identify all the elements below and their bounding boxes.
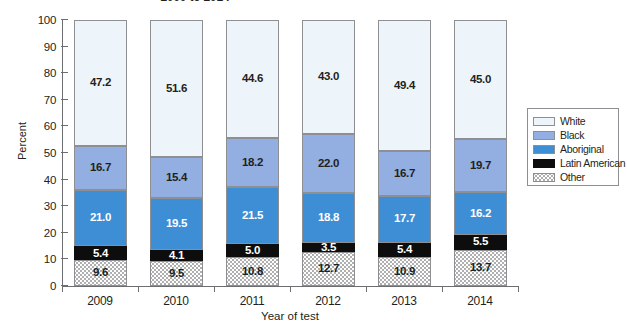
bar-segment-value: 9.5: [169, 268, 184, 280]
bar-segment: 22.0: [302, 134, 355, 193]
legend-label: Black: [560, 129, 584, 141]
bar-segment: 43.0: [302, 20, 355, 134]
y-axis-tick-mark: [61, 232, 68, 233]
y-axis-title: Percent: [16, 101, 28, 181]
bar-segment: 5.0: [226, 244, 279, 257]
bar-segment-value: 10.8: [242, 266, 263, 278]
legend-swatch-icon: [533, 159, 555, 168]
bar-segment: 3.5: [302, 243, 355, 252]
bar-segment: 16.7: [378, 151, 431, 195]
legend-swatch-icon: [533, 117, 555, 126]
x-axis-tick-mark: [442, 286, 443, 292]
bar-segment-value: 9.6: [93, 267, 108, 279]
legend-swatch-icon: [533, 131, 555, 140]
y-axis-tick-mark: [61, 19, 68, 20]
bar-segment: 18.2: [226, 138, 279, 186]
bar-2009: 9.65.421.016.747.2: [74, 20, 127, 286]
chart-legend: WhiteBlackAboriginalLatin AmericanOther: [527, 108, 619, 186]
bar-segment-value: 15.4: [166, 172, 187, 184]
bar-segment-value: 16.2: [470, 208, 491, 220]
bar-segment-value: 44.6: [242, 73, 263, 85]
bar-2012: 12.73.518.822.043.0: [302, 20, 355, 286]
y-axis-tick-label: 50: [26, 147, 56, 159]
y-axis-tick-mark: [61, 179, 68, 180]
bar-2011: 10.85.021.518.244.6: [226, 20, 279, 286]
bar-segment: 16.7: [74, 146, 127, 190]
legend-label: Latin American: [560, 157, 625, 169]
bar-segment: 12.7: [302, 252, 355, 286]
legend-swatch-icon: [533, 173, 555, 182]
x-axis-tick-mark: [290, 286, 291, 292]
y-axis-tick-label: 10: [26, 253, 56, 265]
y-axis-tick: 50: [20, 147, 68, 159]
stacked-bar-chart-figure: 2009 to 2014 Percent 0102030405060708090…: [0, 0, 627, 332]
bar-segment-value: 18.2: [242, 157, 263, 169]
bar-2014: 13.75.516.219.745.0: [454, 20, 507, 286]
y-axis-tick-label: 60: [26, 120, 56, 132]
bar-segment-value: 21.5: [242, 210, 263, 222]
chart-title: 2009 to 2014: [60, 0, 330, 2]
legend-label: Aboriginal: [560, 143, 604, 155]
y-axis-tick: 30: [20, 200, 68, 212]
bar-segment: 47.2: [74, 20, 127, 146]
y-axis-tick-mark: [61, 72, 68, 73]
y-axis-tick-label: 70: [26, 94, 56, 106]
y-axis-tick-mark: [61, 99, 68, 100]
y-axis-tick-mark: [61, 152, 68, 153]
y-axis-tick-label: 80: [26, 67, 56, 79]
legend-label: White: [560, 115, 585, 127]
y-axis-tick: 40: [20, 174, 68, 186]
y-axis-tick: 80: [20, 67, 68, 79]
bar-segment-value: 19.5: [166, 218, 187, 230]
bar-segment: 19.5: [150, 198, 203, 250]
y-axis-tick-label: 30: [26, 200, 56, 212]
y-axis-tick-mark: [61, 205, 68, 206]
bar-segment: 18.8: [302, 193, 355, 243]
bar-segment-value: 51.6: [166, 83, 187, 95]
bar-segment-value: 5.0: [245, 245, 260, 257]
bar-segment-value: 12.7: [318, 263, 339, 275]
y-axis-tick-label: 100: [26, 14, 56, 26]
x-axis-tick-mark: [62, 286, 63, 292]
x-axis-tick-label-2014: 2014: [442, 294, 518, 308]
x-axis-tick-mark: [138, 286, 139, 292]
bar-segment-value: 22.0: [318, 158, 339, 170]
legend-item-white: White: [533, 114, 618, 128]
y-axis-tick-label: 40: [26, 174, 56, 186]
y-axis-tick: 10: [20, 253, 68, 265]
x-axis-tick-label-2009: 2009: [62, 294, 138, 308]
bar-2013: 10.95.417.716.749.4: [378, 20, 431, 286]
bar-segment-value: 49.4: [394, 80, 415, 92]
bar-segment: 10.9: [378, 257, 431, 286]
bar-segment: 10.8: [226, 257, 279, 286]
bar-segment: 16.2: [454, 192, 507, 235]
bar-segment-value: 16.7: [394, 168, 415, 180]
bar-segment-value: 5.5: [473, 236, 488, 248]
bar-segment-value: 10.9: [394, 266, 415, 278]
x-axis-tick-label-2010: 2010: [138, 294, 214, 308]
bar-segment: 9.6: [74, 260, 127, 286]
bar-segment: 9.5: [150, 261, 203, 286]
bar-segment: 5.4: [74, 246, 127, 260]
y-axis-tick: 100: [20, 14, 68, 26]
bar-segment: 5.4: [378, 243, 431, 257]
bar-segment-value: 4.1: [169, 250, 184, 262]
bar-segment: 44.6: [226, 20, 279, 139]
y-axis-tick-mark: [61, 46, 68, 47]
x-axis-tick-mark: [366, 286, 367, 292]
legend-item-aboriginal: Aboriginal: [533, 142, 618, 156]
bar-segment-value: 16.7: [90, 162, 111, 174]
bar-segment: 21.5: [226, 187, 279, 244]
x-axis-title: Year of test: [180, 310, 400, 322]
y-axis-tick: 20: [20, 227, 68, 239]
legend-swatch-icon: [533, 145, 555, 154]
bar-segment: 5.5: [454, 235, 507, 250]
y-axis-tick: 90: [20, 41, 68, 53]
legend-item-latin-american: Latin American: [533, 156, 618, 170]
bar-segment-value: 3.5: [321, 242, 336, 254]
bar-segment-value: 5.4: [397, 244, 412, 256]
legend-label: Other: [560, 171, 585, 183]
bar-segment-value: 43.0: [318, 71, 339, 83]
x-axis-tick-mark: [518, 286, 519, 292]
bar-segment: 51.6: [150, 20, 203, 157]
